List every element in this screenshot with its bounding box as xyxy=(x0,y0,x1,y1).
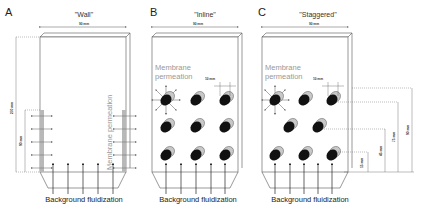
width-label-c: 90 mm xyxy=(309,22,319,26)
membrane-left xyxy=(40,110,44,172)
height-label-a: 270 mm xyxy=(10,102,14,114)
tube-spacing-label-b: 10 mm xyxy=(205,77,215,81)
width-label-b: 90 mm xyxy=(193,22,203,26)
panel-b: B "Inline" 90 mm Membrane permeation 10 … xyxy=(150,6,242,204)
tube-array-b xyxy=(158,89,236,163)
membrane-right xyxy=(122,110,126,172)
fluidization-label-a: Background fluidization xyxy=(45,195,123,204)
permeation-label-b-1: Membrane xyxy=(155,63,191,72)
tube-spacing-label-c: 10 mm xyxy=(313,77,323,81)
fluidization-label-b: Background fluidization xyxy=(159,195,237,204)
panel-c: C "Staggered" 90 mm Membrane permeation … xyxy=(258,6,414,204)
panel-title-a: "Wall" xyxy=(75,11,94,18)
panel-letter-a: A xyxy=(5,6,13,18)
permeation-label-a: Membrane permeation xyxy=(105,95,114,170)
panel-letter-c: C xyxy=(258,6,266,18)
panel-a: A "Wall" 90 mm Membrane permeation xyxy=(5,6,136,204)
fluidized-bed-diagram: A "Wall" 90 mm Membrane permeation xyxy=(0,0,425,206)
height-label-15: 15 mm xyxy=(360,158,364,168)
permeation-label-c-2: permeation xyxy=(265,72,303,81)
membrane-height-label-a: 90 mm xyxy=(19,136,23,146)
panel-letter-b: B xyxy=(150,6,157,18)
height-label-75: 75 mm xyxy=(392,132,396,142)
height-label-90: 90 mm xyxy=(406,125,410,135)
panel-title-c: "Staggered" xyxy=(299,11,337,19)
permeation-label-c-1: Membrane xyxy=(265,63,301,72)
height-label-45: 45 mm xyxy=(379,146,383,156)
width-label-a: 90 mm xyxy=(79,22,89,26)
permeation-label-b-2: permeation xyxy=(155,72,193,81)
panel-title-b: "Inline" xyxy=(194,11,216,18)
fluidization-label-c: Background fluidization xyxy=(271,195,349,204)
